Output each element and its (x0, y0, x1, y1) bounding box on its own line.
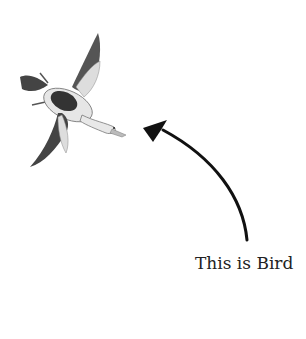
arrow-icon (135, 118, 255, 248)
caption-text: This is Bird (195, 253, 293, 273)
bird-image (10, 25, 135, 175)
